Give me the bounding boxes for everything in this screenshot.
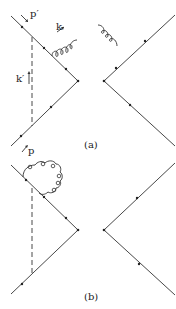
label-k: k — [56, 22, 62, 32]
diagram-a — [11, 15, 175, 152]
vertex-dots-b — [21, 179, 140, 285]
gluon-line-right — [98, 25, 117, 46]
fermion-line-left — [11, 165, 78, 294]
label-k-prime: k′ — [16, 74, 24, 84]
fermion-line-right — [104, 15, 175, 146]
gluon-line-left — [52, 40, 77, 57]
label-p-prime: p′ — [30, 9, 39, 19]
feynman-diagrams — [0, 0, 176, 309]
caption-a: (a) — [84, 140, 98, 150]
caption-b: (b) — [84, 292, 98, 302]
gluon-curls — [28, 162, 61, 192]
fermion-line-right — [104, 163, 175, 295]
label-p: p — [28, 146, 34, 156]
diagram-b — [11, 161, 175, 295]
